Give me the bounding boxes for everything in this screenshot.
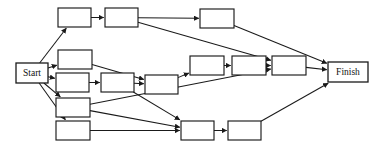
node-box-c1[interactable]	[56, 73, 89, 92]
node-b1[interactable]	[58, 50, 92, 69]
node-d1[interactable]	[56, 98, 90, 117]
node-box-m3[interactable]	[272, 56, 306, 75]
edge-start-to-c1	[48, 77, 55, 79]
edge-c3-to-m1	[178, 73, 189, 78]
node-c1[interactable]	[56, 73, 89, 92]
node-box-a1[interactable]	[58, 8, 91, 27]
node-box-m2[interactable]	[232, 56, 266, 75]
node-box-b1[interactable]	[58, 50, 92, 69]
nodes-layer: StartFinish	[16, 8, 368, 140]
node-m1[interactable]	[190, 56, 224, 75]
node-box-start[interactable]	[16, 63, 48, 83]
node-a1[interactable]	[58, 8, 91, 27]
node-start[interactable]: Start	[16, 63, 48, 83]
node-box-a2[interactable]	[105, 8, 138, 27]
node-box-c2[interactable]	[101, 73, 134, 92]
node-box-d1[interactable]	[56, 98, 90, 117]
node-m2[interactable]	[232, 56, 266, 75]
node-c2[interactable]	[101, 73, 134, 92]
node-box-e1[interactable]	[56, 121, 90, 140]
edge-a2-to-a3	[138, 18, 199, 19]
edge-c2-to-e2	[133, 92, 179, 120]
node-a3[interactable]	[200, 9, 234, 28]
node-box-e3[interactable]	[228, 121, 261, 140]
edge-m3-to-finish	[306, 67, 327, 69]
activity-network-diagram: StartFinish	[0, 0, 380, 156]
node-e3[interactable]	[228, 121, 261, 140]
node-box-m1[interactable]	[190, 56, 224, 75]
node-box-e2[interactable]	[181, 121, 214, 140]
edge-d1-to-e2	[90, 111, 180, 128]
diagram-canvas: StartFinish	[0, 0, 380, 156]
node-a2[interactable]	[105, 8, 138, 27]
node-box-a3[interactable]	[200, 9, 234, 28]
edge-e3-to-finish	[261, 83, 328, 121]
node-c3[interactable]	[145, 75, 178, 94]
node-box-c3[interactable]	[145, 75, 178, 94]
node-e1[interactable]	[56, 121, 90, 140]
edge-start-to-b1	[48, 65, 57, 68]
node-m3[interactable]	[272, 56, 306, 75]
node-e2[interactable]	[181, 121, 214, 140]
node-box-finish[interactable]	[328, 62, 368, 82]
node-finish[interactable]: Finish	[328, 62, 368, 82]
